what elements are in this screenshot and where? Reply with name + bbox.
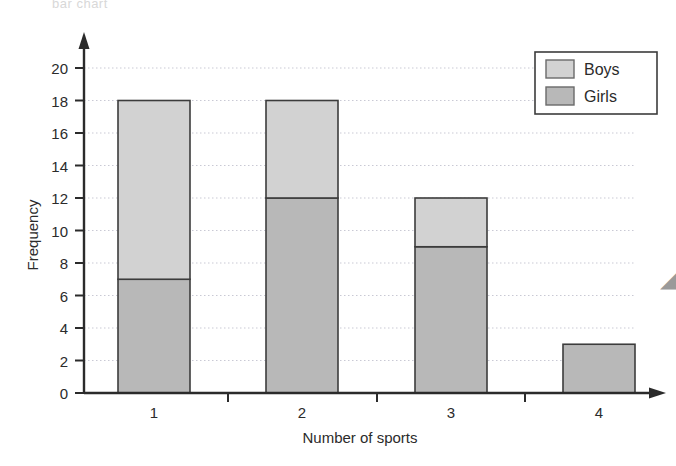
bar-group-4 <box>563 344 635 393</box>
y-tick-label: 20 <box>51 60 68 77</box>
legend-label-boys: Boys <box>584 61 620 78</box>
legend-swatch-boys <box>546 60 574 78</box>
y-tick-label: 0 <box>60 385 68 402</box>
y-tick-label: 18 <box>51 93 68 110</box>
bar-segment-girls-3 <box>415 247 487 393</box>
x-tick-label: 4 <box>595 404 603 421</box>
bar-group-1 <box>118 101 190 394</box>
x-axis-tick-labels: 1 2 3 4 <box>150 404 603 421</box>
x-tick-label: 3 <box>447 404 455 421</box>
x-axis-title: Number of sports <box>302 429 417 446</box>
y-axis <box>79 32 90 393</box>
page-corner-glyph: ◢ <box>660 247 676 291</box>
x-axis-ticks <box>228 393 525 402</box>
bar-segment-girls-2 <box>266 198 338 393</box>
y-tick-label: 16 <box>51 125 68 142</box>
bar-segment-girls-4 <box>563 344 635 393</box>
bar-segment-boys-1 <box>118 101 190 280</box>
y-axis-title: Frequency <box>24 199 41 270</box>
bar-segment-boys-3 <box>415 198 487 247</box>
y-tick-label: 12 <box>51 190 68 207</box>
y-axis-ticks <box>75 68 84 393</box>
y-tick-label: 4 <box>60 320 68 337</box>
legend: Boys Girls <box>535 52 657 114</box>
x-tick-label: 1 <box>150 404 158 421</box>
chart-canvas: 20 18 16 14 12 10 8 6 4 2 0 1 2 3 4 Numb… <box>0 0 676 466</box>
y-axis-tick-labels: 20 18 16 14 12 10 8 6 4 2 0 <box>51 60 68 402</box>
bar-group-2 <box>266 101 338 394</box>
y-tick-label: 2 <box>60 353 68 370</box>
y-tick-label: 10 <box>51 223 68 240</box>
bar-chart-figure: bar chart <box>0 0 676 466</box>
y-tick-label: 14 <box>51 158 68 175</box>
x-tick-label: 2 <box>298 404 306 421</box>
bar-segment-girls-1 <box>118 279 190 393</box>
legend-swatch-girls <box>546 87 574 105</box>
y-tick-label: 8 <box>60 255 68 272</box>
bar-group-3 <box>415 198 487 393</box>
legend-label-girls: Girls <box>584 88 617 105</box>
y-tick-label: 6 <box>60 288 68 305</box>
bar-segment-boys-2 <box>266 101 338 199</box>
